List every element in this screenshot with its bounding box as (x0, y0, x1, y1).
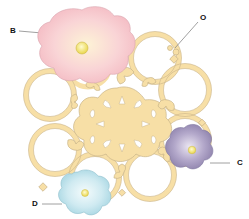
bead-center-d (82, 190, 89, 197)
blue-flower (59, 170, 111, 215)
label-b: B (10, 27, 16, 35)
bead-center-b (76, 42, 88, 54)
leader-line-o (175, 22, 198, 48)
label-c: C (237, 159, 243, 167)
diagram-canvas: B O C D (0, 0, 249, 219)
purple-flower (166, 124, 213, 169)
diagram-svg (0, 0, 249, 219)
label-d: D (32, 200, 38, 208)
bead-center-c (188, 146, 196, 154)
label-o: O (200, 14, 206, 22)
